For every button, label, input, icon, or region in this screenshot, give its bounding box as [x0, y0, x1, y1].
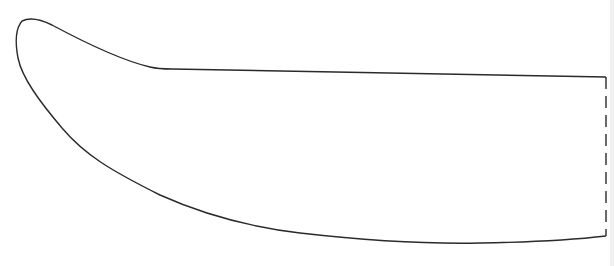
- blade-cutting-edge-line: [62, 128, 606, 243]
- blade-outline-drawing: [0, 0, 614, 266]
- blade-tip-line: [16, 21, 62, 128]
- blade-spine-line: [22, 19, 606, 77]
